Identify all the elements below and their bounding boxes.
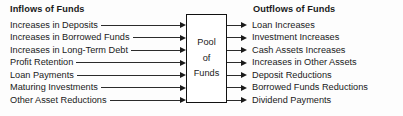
outflow-label: Deposit Reductions <box>247 70 332 81</box>
leader-line <box>227 50 241 51</box>
leader-line <box>76 62 180 63</box>
leader-line <box>101 87 180 88</box>
inflow-label: Loan Payments <box>10 70 77 81</box>
inflow-label: Maturing Investments <box>10 82 101 93</box>
funds-flow-diagram: Inflows of Funds Outflows of Funds Incre… <box>0 0 403 116</box>
leader-line <box>227 25 241 26</box>
leader-line <box>110 100 180 101</box>
inflow-label: Increases in Deposits <box>10 20 101 31</box>
inflow-row: Loan Payments <box>10 69 186 81</box>
inflow-row: Increases in Deposits <box>10 19 186 31</box>
inflow-label: Profit Retention <box>10 57 76 68</box>
outflow-row: Loan Increases <box>227 19 403 31</box>
leader-line <box>131 50 180 51</box>
leader-line <box>77 75 180 76</box>
leader-line <box>133 37 181 38</box>
inflow-row: Increases in Borrowed Funds <box>10 32 186 44</box>
outflow-row: Dividend Payments <box>227 94 403 106</box>
outflow-label: Increases in Other Assets <box>247 57 357 68</box>
inflow-row: Other Asset Reductions <box>10 94 186 106</box>
outflows-heading: Outflows of Funds <box>253 4 335 14</box>
outflow-row: Borrowed Funds Reductions <box>227 82 403 94</box>
inflow-label: Other Asset Reductions <box>10 95 110 106</box>
outflow-label: Investment Increases <box>247 32 339 43</box>
leader-line <box>227 37 241 38</box>
outflow-row: Investment Increases <box>227 32 403 44</box>
pool-box-line-3: Funds <box>194 66 220 82</box>
leader-line <box>227 62 241 63</box>
outflow-label: Dividend Payments <box>247 95 331 106</box>
leader-line <box>227 75 241 76</box>
outflow-row: Deposit Reductions <box>227 69 403 81</box>
inflow-row: Maturing Investments <box>10 82 186 94</box>
inflow-label: Increases in Long-Term Debt <box>10 45 131 56</box>
pool-box-line-1: Pool <box>197 35 215 51</box>
leader-line <box>227 87 241 88</box>
inflow-label: Increases in Borrowed Funds <box>10 32 133 43</box>
pool-box-line-2: of <box>203 51 211 67</box>
inflow-row: Profit Retention <box>10 57 186 69</box>
outflow-row: Increases in Other Assets <box>227 57 403 69</box>
leader-line <box>101 25 180 26</box>
inflows-heading: Inflows of Funds <box>10 4 85 14</box>
inflow-row: Increases in Long-Term Debt <box>10 44 186 56</box>
outflow-label: Cash Assets Increases <box>247 45 345 56</box>
leader-line <box>227 100 241 101</box>
outflow-label: Loan Increases <box>247 20 315 31</box>
outflow-label: Borrowed Funds Reductions <box>247 82 368 93</box>
outflow-row: Cash Assets Increases <box>227 44 403 56</box>
pool-of-funds-box: Pool of Funds <box>186 14 227 103</box>
